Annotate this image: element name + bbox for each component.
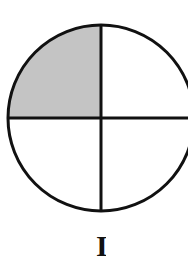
figure-label: I [96, 234, 106, 257]
fraction-circle-diagram [0, 0, 188, 257]
